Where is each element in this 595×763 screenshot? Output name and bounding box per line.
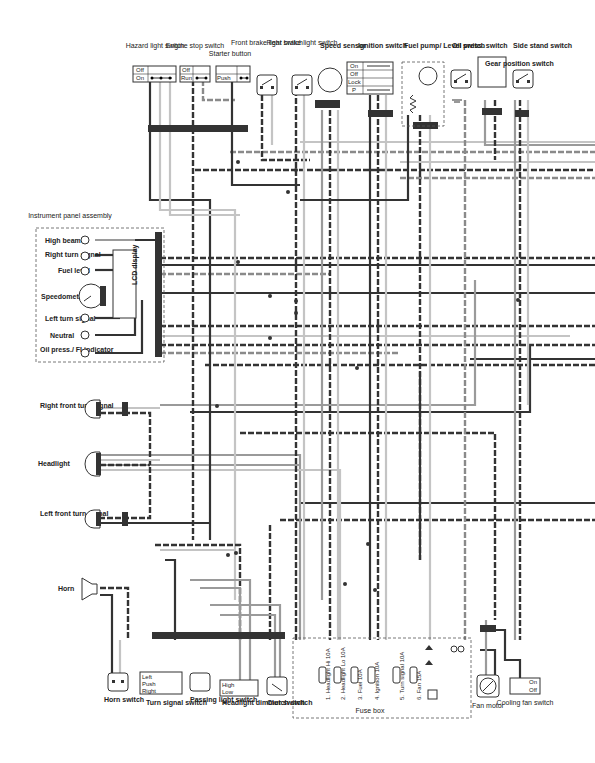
- fuel-pump-level-switch: Fuel pump/ Level switch: [402, 42, 485, 126]
- fuse: 3. Fuel 10A: [351, 667, 363, 700]
- side-stand-connector: [515, 110, 529, 117]
- instrument-harness-connector: [155, 232, 162, 357]
- svg-text:Low: Low: [222, 689, 234, 695]
- svg-text:Horn: Horn: [58, 585, 74, 592]
- svg-text:Run: Run: [181, 75, 192, 81]
- svg-text:Push: Push: [142, 681, 156, 687]
- starter-button: Starter button Push: [209, 50, 252, 82]
- fuse: 2. Headlight Lo 10A: [334, 647, 346, 700]
- svg-text:3. Fuel 10A: 3. Fuel 10A: [357, 669, 363, 700]
- harness-connector: [148, 125, 248, 132]
- svg-text:High: High: [222, 682, 234, 688]
- horn: Horn: [58, 578, 97, 600]
- svg-text:P: P: [352, 87, 356, 93]
- svg-text:Lock: Lock: [348, 79, 362, 85]
- svg-text:Right front turn signal: Right front turn signal: [40, 402, 114, 410]
- svg-text:Horn switch: Horn switch: [104, 696, 144, 703]
- svg-text:5. Turn signal 10A: 5. Turn signal 10A: [399, 652, 405, 700]
- svg-text:Left: Left: [142, 674, 152, 680]
- fuel-pump-connector: [413, 122, 438, 129]
- svg-text:On: On: [136, 75, 144, 81]
- svg-text:Push: Push: [217, 75, 231, 81]
- switch-harness-connector: [152, 632, 285, 639]
- svg-text:4. Ignition 10A: 4. Ignition 10A: [374, 662, 380, 700]
- svg-text:Oil press./ FI indicator: Oil press./ FI indicator: [40, 346, 114, 354]
- fan-connector: [480, 625, 496, 632]
- svg-text:Instrument panel assembly: Instrument panel assembly: [28, 212, 112, 220]
- svg-text:Off: Off: [529, 687, 537, 693]
- svg-text:Neutral: Neutral: [50, 332, 74, 339]
- svg-text:Clutch switch: Clutch switch: [267, 699, 313, 706]
- svg-text:Headlight: Headlight: [38, 460, 71, 468]
- svg-text:Ignition switch: Ignition switch: [358, 42, 407, 50]
- svg-text:Oil press. switch: Oil press. switch: [452, 42, 508, 50]
- svg-text:Side stand switch: Side stand switch: [513, 42, 572, 49]
- svg-text:Off: Off: [350, 71, 358, 77]
- horn-switch: Horn switch: [104, 673, 144, 703]
- turn-connector-left: [122, 512, 128, 526]
- fuse: 5. Turn signal 10A: [393, 652, 405, 700]
- svg-text:Off: Off: [136, 67, 144, 73]
- turn-connector-right: [122, 402, 128, 416]
- svg-text:Fuse box: Fuse box: [356, 707, 385, 714]
- fuse: 6. Fan 15A: [410, 667, 422, 700]
- svg-text:LCD display: LCD display: [131, 244, 139, 285]
- headlight: Headlight: [38, 452, 101, 476]
- svg-text:On: On: [350, 63, 358, 69]
- svg-text:Right turn signal: Right turn signal: [45, 251, 101, 259]
- svg-text:Gear position switch: Gear position switch: [485, 60, 554, 68]
- wiring-diagram: Hazard light switch Off On Engine stop s…: [0, 0, 595, 763]
- fuse: 4. Ignition 10A: [368, 662, 380, 700]
- svg-text:Engine stop switch: Engine stop switch: [166, 42, 224, 50]
- cooling-fan-switch: On Off Cooling fan switch: [497, 678, 554, 707]
- svg-text:Starter button: Starter button: [209, 50, 252, 57]
- wire-bundle: [95, 80, 595, 680]
- instrument-panel-assembly: Instrument panel assembly LCD display Hi…: [28, 212, 164, 362]
- svg-text:High beam: High beam: [45, 237, 81, 245]
- ignition-switch: Ignition switch On Off Lock P: [347, 42, 407, 94]
- left-front-turn-signal: Left front turn signal: [40, 510, 108, 528]
- svg-text:1. Headlight Hi 10A: 1. Headlight Hi 10A: [325, 648, 331, 700]
- speed-sensor-connector: [315, 100, 340, 108]
- fuse-box: Fuse box 1. Headlight Hi 10A 2. Headligh…: [293, 638, 471, 718]
- fuse: 1. Headlight Hi 10A: [319, 648, 331, 700]
- svg-text:6. Fan 15A: 6. Fan 15A: [416, 671, 422, 700]
- clutch-switch: Clutch switch: [267, 677, 313, 706]
- svg-text:Cooling fan switch: Cooling fan switch: [497, 699, 554, 707]
- svg-text:Off: Off: [182, 67, 190, 73]
- svg-text:On: On: [529, 679, 537, 685]
- svg-text:Right: Right: [142, 688, 156, 694]
- svg-text:2. Headlight Lo 10A: 2. Headlight Lo 10A: [340, 647, 346, 700]
- gear-position-connector: [482, 108, 502, 115]
- ignition-connector: [368, 110, 393, 117]
